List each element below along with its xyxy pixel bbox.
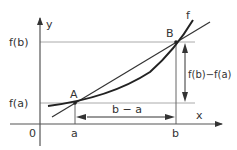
point-b-label: B	[166, 27, 174, 40]
x-axis-label: x	[196, 109, 203, 122]
arrowhead-down-icon	[182, 92, 188, 102]
curve-f-label: f	[186, 9, 191, 22]
secant-diagram: y x 0 f(b) f(a) a b A B f b − a f(b)−f(a…	[0, 0, 237, 150]
point-a-marker	[73, 101, 77, 105]
b-label: b	[172, 127, 179, 140]
fa-label: f(a)	[9, 97, 28, 110]
y-axis-label: y	[46, 18, 53, 31]
fb-minus-fa-label: f(b)−f(a)	[188, 69, 232, 80]
arrowhead-up-icon	[182, 43, 188, 53]
point-a-label: A	[70, 88, 78, 101]
origin-label: 0	[29, 127, 36, 140]
a-label: a	[71, 127, 78, 140]
fb-label: f(b)	[9, 36, 28, 49]
arrowhead-right-icon	[165, 114, 175, 120]
point-b-marker	[174, 40, 178, 44]
b-minus-a-label: b − a	[112, 103, 142, 116]
arrowhead-left-icon	[76, 114, 86, 120]
